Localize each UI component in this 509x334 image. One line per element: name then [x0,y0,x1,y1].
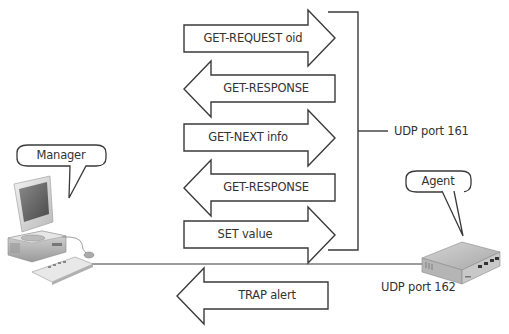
trap-label: TRAP alert [238,288,296,302]
set-label: SET value [218,227,273,241]
manager-label: Manager [36,148,85,162]
desktop-computer-icon [8,176,94,285]
agent-callout-tail [442,191,463,236]
get-next-label: GET-NEXT info [208,130,288,144]
agent-label: Agent [421,174,454,188]
get-response-label-1: GET-RESPONSE [223,81,309,95]
get-response-label-2: GET-RESPONSE [223,180,309,194]
get-request-label: GET-REQUEST oid [204,31,303,45]
udp-162-label: UDP port 162 [381,280,456,294]
udp-161-bracket [328,12,388,250]
udp-161-label: UDP port 161 [394,124,469,138]
network-switch-icon [422,242,500,284]
